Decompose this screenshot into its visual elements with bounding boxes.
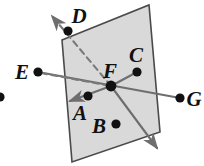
point-label-D: D [70,4,86,28]
point-dot-E [33,67,42,76]
point-dot-A [83,91,92,100]
figure-canvas: A B C D E F G [0,0,204,166]
point-dot-C [132,67,141,76]
point-label-C: C [129,43,144,67]
point-dot-B [111,119,120,128]
point-label-A: A [71,101,87,125]
point-label-G: G [186,87,201,111]
edge-dot [0,92,5,101]
point-label-F: F [102,59,117,83]
point-label-B: B [91,114,106,138]
point-label-E: E [14,60,29,84]
geometry-figure: A B C D E F G [0,0,204,166]
point-dot-G [175,93,184,102]
